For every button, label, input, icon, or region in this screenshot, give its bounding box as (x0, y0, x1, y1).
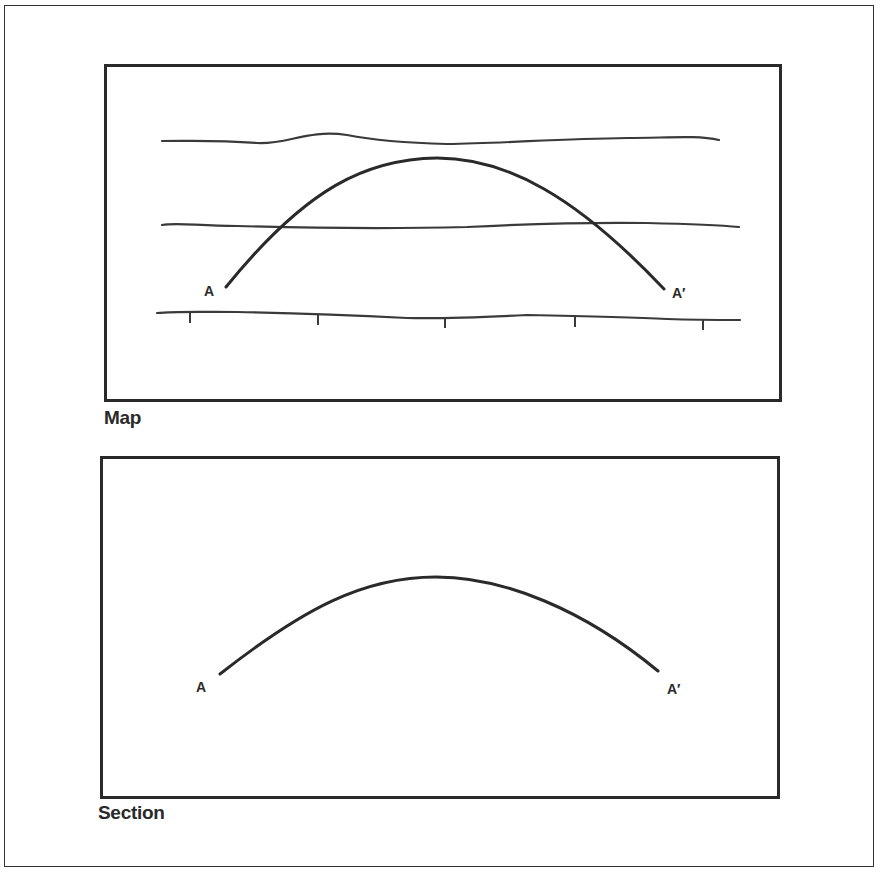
tick-marks (190, 313, 703, 330)
map-caption: Map (104, 407, 141, 429)
map-label-a-prime: A′ (672, 285, 685, 301)
map-drawing (107, 67, 779, 399)
section-drawing (103, 459, 777, 796)
map-label-a: A (204, 283, 214, 299)
section-caption: Section (98, 802, 165, 824)
contour-line-middle (162, 223, 739, 228)
section-panel: A A′ (100, 456, 780, 799)
fold-profile-curve (220, 577, 658, 674)
section-label-a: A (196, 679, 206, 695)
section-label-a-prime: A′ (667, 681, 680, 697)
contour-line-bottom-baseline (157, 312, 740, 320)
map-panel: A A′ (104, 64, 782, 402)
contour-line-top (162, 134, 719, 144)
